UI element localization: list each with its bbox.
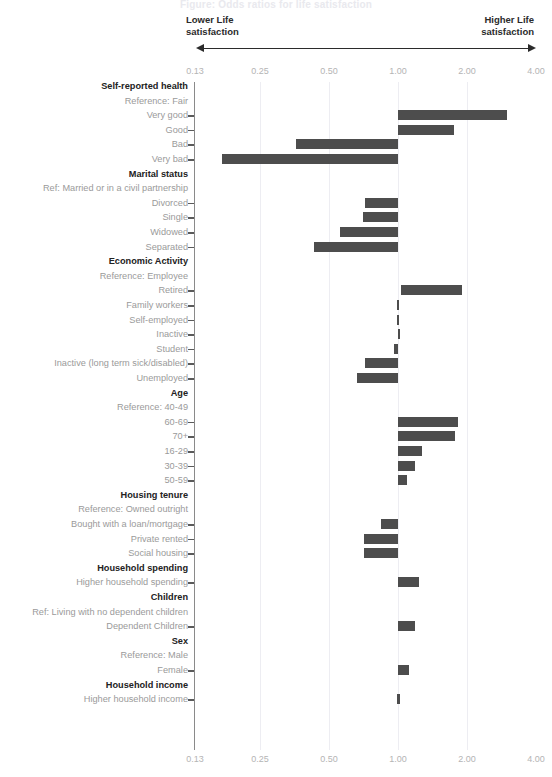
confidence-interval-bar bbox=[398, 475, 407, 485]
category-label: Private rented bbox=[131, 534, 188, 544]
y-axis-tick bbox=[188, 159, 194, 161]
category-label: Higher household income bbox=[84, 694, 188, 704]
y-axis-tick bbox=[188, 466, 194, 468]
category-label: Family workers bbox=[126, 300, 188, 310]
category-label: Divorced bbox=[152, 198, 188, 208]
reference-category-label: Reference: Male bbox=[121, 650, 188, 660]
gridline bbox=[467, 82, 468, 750]
confidence-interval-bar bbox=[394, 344, 398, 354]
direction-arrow bbox=[196, 44, 536, 53]
y-axis-tick bbox=[188, 378, 194, 380]
confidence-interval-bar bbox=[398, 125, 454, 135]
x-tick-label-bottom: 1.00 bbox=[389, 754, 407, 764]
y-axis-tick bbox=[188, 217, 194, 219]
x-tick-label-bottom: 0.25 bbox=[251, 754, 269, 764]
gridline bbox=[329, 82, 330, 750]
category-label: 60-69 bbox=[165, 417, 189, 427]
y-axis-tick bbox=[188, 582, 194, 584]
confidence-interval-bar bbox=[363, 212, 398, 222]
reference-category-label: Reference: Fair bbox=[125, 96, 188, 106]
category-label: Bad bbox=[172, 139, 188, 149]
category-label: Widowed bbox=[150, 227, 188, 237]
gridline bbox=[260, 82, 261, 750]
y-axis-tick bbox=[188, 305, 194, 307]
category-label: Higher household spending bbox=[76, 577, 188, 587]
y-axis-tick bbox=[188, 232, 194, 234]
x-tick-label-bottom: 2.00 bbox=[458, 754, 476, 764]
y-axis-tick bbox=[188, 290, 194, 292]
category-label: Very bad bbox=[152, 154, 188, 164]
confidence-interval-bar bbox=[314, 242, 398, 252]
reference-category-label: Ref: Married or in a civil partnership bbox=[43, 183, 188, 193]
y-axis-tick bbox=[188, 349, 194, 351]
category-label: Self-employed bbox=[129, 315, 188, 325]
arrow-line bbox=[203, 48, 529, 49]
category-label: Retired bbox=[158, 285, 188, 295]
y-axis-tick bbox=[188, 539, 194, 541]
category-label: Good bbox=[166, 125, 188, 135]
group-header: Sex bbox=[172, 636, 188, 646]
y-axis-tick bbox=[188, 334, 194, 336]
confidence-interval-bar bbox=[357, 373, 398, 383]
category-label: Very good bbox=[147, 110, 188, 120]
x-tick-label-bottom: 0.50 bbox=[320, 754, 338, 764]
x-tick-label-bottom: 4.00 bbox=[527, 754, 545, 764]
x-axis-bottom: 0.130.250.501.002.004.00 bbox=[0, 754, 552, 766]
category-label: Bought with a loan/mortgage bbox=[71, 519, 188, 529]
x-tick-label-top: 2.00 bbox=[458, 66, 476, 76]
group-header: Self-reported health bbox=[101, 81, 188, 91]
confidence-interval-bar bbox=[296, 139, 398, 149]
confidence-interval-bar bbox=[398, 446, 422, 456]
confidence-interval-bar bbox=[398, 417, 458, 427]
confidence-interval-bar bbox=[401, 285, 462, 295]
category-label: Student bbox=[156, 344, 188, 354]
y-axis-tick bbox=[188, 144, 194, 146]
reference-category-label: Ref: Living with no dependent children bbox=[32, 607, 188, 617]
group-header: Marital status bbox=[129, 169, 188, 179]
category-label: 70+ bbox=[172, 431, 188, 441]
confidence-interval-bar bbox=[365, 358, 398, 368]
group-header: Children bbox=[151, 592, 188, 602]
group-header: Age bbox=[171, 388, 188, 398]
confidence-interval-bar bbox=[397, 694, 400, 704]
lower-satisfaction-label: Lower Life satisfaction bbox=[186, 14, 239, 37]
group-header: Economic Activity bbox=[109, 256, 188, 266]
y-axis-tick bbox=[188, 115, 194, 117]
confidence-interval-bar bbox=[364, 548, 398, 558]
confidence-interval-bar bbox=[381, 519, 398, 529]
confidence-interval-bar bbox=[397, 300, 399, 310]
confidence-interval-bar bbox=[398, 461, 415, 471]
confidence-interval-bar bbox=[398, 621, 414, 631]
confidence-interval-bar bbox=[365, 198, 398, 208]
y-axis-tick bbox=[188, 480, 194, 482]
category-label: Separated bbox=[146, 242, 188, 252]
y-axis-tick bbox=[188, 130, 194, 132]
plot-area bbox=[195, 82, 536, 750]
y-axis-tick bbox=[188, 203, 194, 205]
x-tick-label-top: 1.00 bbox=[389, 66, 407, 76]
group-header: Housing tenure bbox=[121, 490, 188, 500]
confidence-interval-bar bbox=[398, 665, 409, 675]
reference-category-label: Reference: Employee bbox=[100, 271, 188, 281]
chart-canvas: Figure: Odds ratios for life satisfactio… bbox=[0, 0, 552, 777]
x-tick-label-bottom: 0.13 bbox=[186, 754, 204, 764]
group-header: Household spending bbox=[97, 563, 188, 573]
higher-satisfaction-label: Higher Life satisfaction bbox=[481, 14, 534, 37]
x-tick-label-top: 0.13 bbox=[186, 66, 204, 76]
confidence-interval-bar bbox=[398, 577, 419, 587]
y-axis-tick bbox=[188, 524, 194, 526]
category-label: 16-29 bbox=[165, 446, 189, 456]
category-label: 30-39 bbox=[165, 461, 189, 471]
arrow-right-icon bbox=[528, 44, 536, 52]
confidence-interval-bar bbox=[340, 227, 398, 237]
category-label: 50-59 bbox=[165, 475, 189, 485]
reference-category-label: Reference: 40-49 bbox=[117, 402, 188, 412]
x-axis-top: 0.130.250.501.002.004.00 bbox=[0, 66, 552, 78]
confidence-interval-bar bbox=[398, 110, 507, 120]
y-axis-tick bbox=[188, 247, 194, 249]
x-tick-label-top: 0.50 bbox=[320, 66, 338, 76]
confidence-interval-bar bbox=[398, 431, 455, 441]
y-axis-spine bbox=[194, 82, 195, 750]
category-label: Inactive bbox=[156, 329, 188, 339]
y-axis-tick bbox=[188, 699, 194, 701]
